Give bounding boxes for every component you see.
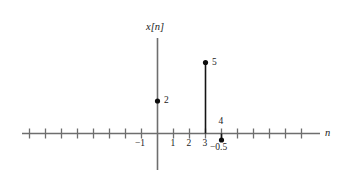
tick-label-3: 3 [203,139,208,149]
x-axis-label: n [325,128,330,139]
stem-marker-n0 [155,98,160,103]
tick-label-neg-1: −1 [135,139,145,149]
stem-n0 [155,98,160,103]
stem-marker-n3 [203,60,208,65]
plot-canvas [0,0,344,180]
value-label-n0: 2 [164,96,169,106]
value-label-n4: −0.5 [210,143,227,153]
tick-label-2: 2 [187,139,192,149]
tick-label-4: 4 [219,117,224,127]
tick-label-1: 1 [171,139,176,149]
value-label-n3: 5 [212,58,217,68]
stem-plot-figure: x[n] n −1 1 2 3 4 2 5 −0.5 [0,0,344,180]
stem-n3 [203,60,208,134]
y-axis-label: x[n] [146,22,164,33]
